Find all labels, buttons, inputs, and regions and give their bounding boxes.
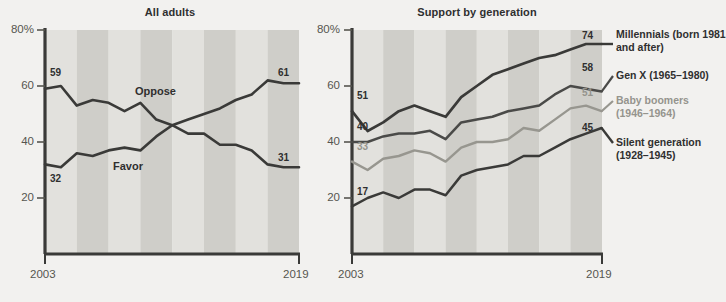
y-tick-label-40: 40 [0, 135, 34, 147]
value-label-silent-start: 17 [357, 186, 368, 197]
y-tick-label-80: 80% [306, 23, 340, 35]
background-bands [45, 30, 299, 254]
value-label-silent-end: 45 [582, 122, 593, 133]
legend-item-silent-generation: Silent generation (1928–1945) [616, 136, 701, 161]
x-tick-label-2019: 2019 [283, 268, 309, 280]
x-tick-label-2003: 2003 [338, 268, 364, 280]
y-tick-label-60: 60 [0, 79, 34, 91]
plot-area-all-adults [0, 0, 340, 302]
legend-label-gen-x-line1: Gen X (1965–1980) [616, 69, 709, 81]
legend-item-gen-x: Gen X (1965–1980) [616, 69, 709, 82]
y-tick-label-20: 20 [0, 191, 34, 203]
value-label-genx-end: 58 [582, 62, 593, 73]
value-label-boomers-end: 51 [582, 87, 593, 98]
legend-label-millennials-line1: Millennials (born 1981 [616, 28, 726, 40]
x-tick-label-2019: 2019 [586, 268, 612, 280]
inline-label-favor: Favor [113, 160, 143, 172]
panel-all-adults: All adults [0, 0, 340, 302]
y-tick-label-80: 80% [0, 23, 34, 35]
value-label-favor-start: 32 [50, 173, 61, 184]
legend-label-millennials-line2: and after) [616, 41, 664, 53]
value-label-oppose-start: 59 [50, 67, 61, 78]
legend-leader-lines [602, 44, 613, 143]
legend-item-baby-boomers: Baby boomers (1946–1964) [616, 94, 689, 119]
y-tick-label-40: 40 [306, 135, 340, 147]
panel-support-by-generation: Support by generation [330, 0, 723, 302]
value-label-favor-end: 61 [278, 67, 289, 78]
legend-item-millennials: Millennials (born 1981 and after) [616, 28, 726, 53]
x-tick-label-2003: 2003 [30, 268, 56, 280]
value-label-oppose-end: 31 [278, 152, 289, 163]
inline-label-oppose: Oppose [135, 85, 176, 97]
legend-label-silent-generation-line2: (1928–1945) [616, 149, 676, 161]
value-label-genx-start: 40 [357, 121, 368, 132]
y-tick-label-60: 60 [306, 79, 340, 91]
value-label-boomers-start: 33 [357, 141, 368, 152]
y-tick-label-20: 20 [306, 191, 340, 203]
legend-label-baby-boomers-line1: Baby boomers [616, 94, 689, 106]
value-label-millennials-start: 51 [357, 90, 368, 101]
value-label-millennials-end: 74 [582, 30, 593, 41]
legend-label-baby-boomers-line2: (1946–1964) [616, 107, 676, 119]
legend-label-silent-generation-line1: Silent generation [616, 136, 701, 148]
